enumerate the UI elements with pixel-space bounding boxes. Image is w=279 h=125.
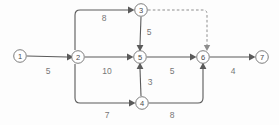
edge-weight-5-to-6: 5 — [170, 66, 175, 76]
edge-weight-2-to-4: 7 — [105, 110, 110, 120]
node-6[interactable]: 6 — [197, 51, 210, 64]
edge-6-to-7-arrowhead — [249, 54, 256, 61]
edge-3-to-6-arrowhead — [204, 45, 210, 51]
edge-3-to-5 — [137, 17, 144, 52]
node-3-label: 3 — [139, 6, 143, 15]
edge-4-to-5-line — [140, 69, 141, 96]
node-3[interactable]: 3 — [135, 4, 148, 17]
edge-weight-6-to-7: 4 — [231, 66, 236, 76]
network-diagram: 1 2 3 4 5 6 7 5 8 5 10 7 — [0, 0, 279, 125]
edge-5-to-6-arrowhead — [190, 54, 197, 61]
edge-3-to-6-dashed-line — [148, 10, 207, 45]
edge-3-to-6-dashed — [148, 10, 210, 51]
edge-weight-4-to-6: 8 — [170, 110, 175, 120]
node-4-label: 4 — [140, 99, 144, 108]
node-6-label: 6 — [201, 53, 205, 62]
edge-2-to-5-arrowhead — [127, 54, 134, 61]
edge-4-to-5 — [137, 63, 144, 97]
edge-3-to-5-line — [140, 17, 141, 45]
edge-5-to-6 — [147, 54, 197, 61]
edge-weight-1-to-2: 5 — [46, 66, 51, 76]
node-4[interactable]: 4 — [136, 97, 149, 110]
edge-1-to-2 — [27, 54, 74, 61]
diagram-canvas: 1 2 3 4 5 6 7 5 8 5 10 7 — [0, 0, 279, 125]
edge-4-to-6-line — [149, 69, 203, 103]
node-5-label: 5 — [138, 53, 142, 62]
node-1[interactable]: 1 — [14, 50, 27, 63]
edge-weight-2-to-3: 8 — [102, 13, 107, 23]
edge-2-to-5 — [85, 54, 134, 61]
node-1-label: 1 — [18, 52, 22, 61]
edge-6-to-7 — [210, 54, 256, 61]
node-7[interactable]: 7 — [256, 51, 269, 64]
node-2[interactable]: 2 — [72, 51, 85, 64]
edge-weight-2-to-5: 10 — [102, 66, 112, 76]
node-5[interactable]: 5 — [134, 51, 147, 64]
node-7-label: 7 — [260, 53, 264, 62]
node-2-label: 2 — [76, 53, 80, 62]
edge-4-to-6 — [149, 63, 206, 104]
edge-2-to-3-arrowhead — [128, 7, 135, 14]
edge-weight-3-to-5: 5 — [147, 27, 152, 37]
edge-weight-4-to-5: 3 — [148, 77, 153, 87]
edge-1-to-2-line — [27, 56, 67, 57]
edge-2-to-4-arrowhead — [129, 100, 136, 107]
